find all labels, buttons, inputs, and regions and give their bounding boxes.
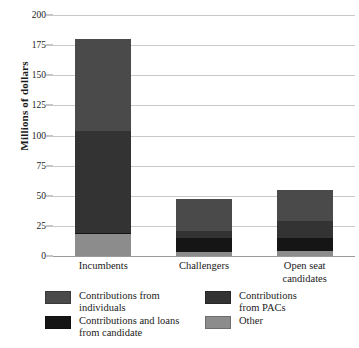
bar-segment-other (75, 234, 131, 256)
x-axis-label: Incumbents (53, 260, 154, 273)
bar-segment-contributions-from-pacs (176, 231, 232, 238)
y-tick-label: 25 (37, 221, 47, 231)
x-axis-labels: IncumbentsChallengersOpen seat candidate… (53, 260, 355, 290)
x-axis-label: Open seat candidates (254, 260, 355, 285)
legend-swatch-candidate (45, 316, 71, 329)
y-tick-mark (46, 195, 53, 196)
y-tick-label: 150 (32, 70, 46, 80)
bar-segment-contributions-and-loans-from-candidate (75, 233, 131, 234)
y-tick-mark (46, 135, 53, 136)
bar-segment-contributions-from-individuals (75, 39, 131, 131)
legend-item-pacs[interactable]: Contributions from PACs (205, 290, 297, 314)
bar-segment-contributions-from-individuals (176, 199, 232, 230)
chart-root: Millions of dollars 02550751001251501752… (0, 0, 359, 348)
y-tick-mark (46, 165, 53, 166)
bar-segment-contributions-and-loans-from-candidate (277, 238, 333, 251)
chart-legend: Contributions from individualsContributi… (0, 288, 359, 348)
y-tick-label: 75 (37, 161, 47, 171)
legend-swatch-pacs (205, 291, 231, 304)
y-tick-mark (46, 105, 53, 106)
legend-label: Contributions from individuals (79, 290, 160, 314)
y-tick-mark (46, 225, 53, 226)
legend-label: Contributions from PACs (239, 290, 297, 314)
y-tick-mark (46, 15, 53, 16)
legend-item-candidate[interactable]: Contributions and loans from candidate (45, 315, 179, 339)
stacked-bar (176, 199, 232, 256)
legend-item-individuals[interactable]: Contributions from individuals (45, 290, 160, 314)
legend-swatch-individuals (45, 291, 71, 304)
y-tick-label: 175 (32, 40, 46, 50)
legend-label: Other (239, 315, 263, 327)
y-tick-label: 50 (37, 191, 47, 201)
legend-item-other[interactable]: Other (205, 315, 263, 329)
stacked-bar (277, 190, 333, 256)
bar-segment-contributions-from-pacs (75, 131, 131, 233)
y-tick-mark (46, 256, 53, 257)
bar-group (277, 15, 333, 256)
bar-segment-contributions-and-loans-from-candidate (176, 238, 232, 252)
y-tick-label: 125 (32, 100, 46, 110)
y-tick-label: 100 (32, 131, 46, 141)
bar-group (75, 15, 131, 256)
plot-area: Millions of dollars 02550751001251501752… (0, 0, 359, 258)
y-tick-mark (46, 45, 53, 46)
bar-group (176, 15, 232, 256)
legend-label: Contributions and loans from candidate (79, 315, 179, 339)
y-tick-mark (46, 75, 53, 76)
bar-series-group (53, 0, 355, 258)
bar-segment-contributions-from-individuals (277, 190, 333, 221)
bar-segment-other (176, 252, 232, 256)
legend-swatch-other (205, 316, 231, 329)
y-axis-ticks: 0255075100125150175200 (0, 0, 52, 258)
stacked-bar (75, 39, 131, 256)
y-tick-label: 200 (32, 10, 46, 20)
bar-segment-contributions-from-pacs (277, 221, 333, 238)
x-axis-label: Challengers (154, 260, 255, 273)
bar-segment-other (277, 251, 333, 256)
